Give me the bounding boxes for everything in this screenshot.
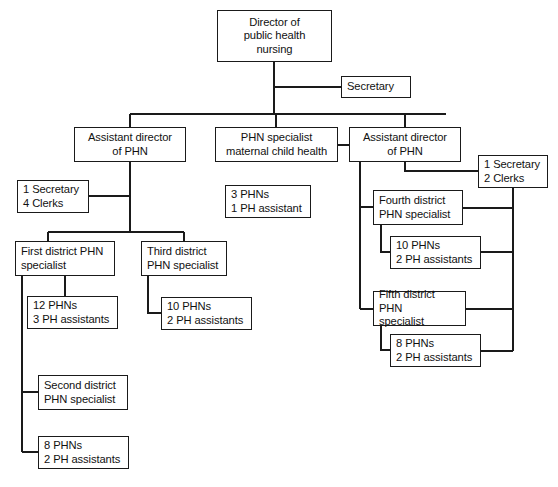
node-first-district[interactable]: First district PHNspecialist [15, 241, 115, 276]
node-secretary-top-line-1: Secretary [347, 80, 406, 93]
node-staff-third-district-line-2: 2 PH assistants [167, 314, 247, 327]
node-assistant-director-left-line-2: of PHN [112, 145, 147, 158]
node-staff-right-adm[interactable]: 1 Secretary2 Clerks [478, 155, 548, 188]
node-staff-right-adm-line-2: 2 Clerks [484, 172, 543, 185]
node-third-district[interactable]: Third districtPHN specialist [141, 241, 227, 276]
node-phn-specialist-mch-line-2: maternal child health [226, 145, 327, 158]
node-assistant-director-left[interactable]: Assistant directorof PHN [74, 127, 186, 162]
node-staff-left-adm-line-1: 1 Secretary [23, 183, 84, 196]
connector-fourth-to-staff [381, 225, 390, 252]
node-staff-second-district-line-1: 8 PHNs [44, 439, 124, 452]
node-staff-second-district-line-2: 2 PH assistants [44, 453, 124, 466]
node-second-district[interactable]: Second districtPHN specialist [38, 375, 128, 410]
node-staff-fifth-district-line-1: 8 PHNs [396, 337, 476, 350]
org-chart-canvas: Director ofpublic healthnursingSecretary… [0, 0, 558, 487]
node-staff-mch[interactable]: 3 PHNs1 PH assistant [225, 185, 311, 218]
node-director-line-2: public health [244, 29, 306, 42]
node-second-district-line-2: PHN specialist [44, 393, 123, 406]
node-staff-left-adm[interactable]: 1 Secretary4 Clerks [17, 180, 89, 213]
node-phn-specialist-mch[interactable]: PHN specialistmaternal child health [215, 127, 338, 162]
node-assistant-director-right[interactable]: Assistant directorof PHN [349, 127, 461, 162]
node-second-district-line-1: Second district [44, 379, 123, 392]
node-fifth-district-line-2: specialist [379, 315, 461, 328]
node-fifth-district[interactable]: Fifth district PHNspecialist [373, 291, 466, 326]
node-staff-first-district[interactable]: 12 PHNs3 PH assistants [27, 296, 118, 329]
node-first-district-line-2: specialist [21, 259, 110, 272]
node-staff-fourth-district[interactable]: 10 PHNs2 PH assistants [390, 236, 481, 269]
node-staff-left-adm-line-2: 4 Clerks [23, 197, 84, 210]
node-director-line-1: Director of [249, 16, 300, 29]
node-staff-first-district-line-1: 12 PHNs [33, 299, 113, 312]
node-first-district-line-1: First district PHN [21, 245, 110, 258]
node-fourth-district[interactable]: Fourth districtPHN specialist [373, 190, 463, 225]
node-director-line-3: nursing [257, 43, 293, 56]
node-staff-right-adm-line-1: 1 Secretary [484, 158, 543, 171]
node-assistant-director-left-line-1: Assistant director [88, 131, 172, 144]
node-staff-fourth-district-line-1: 10 PHNs [396, 239, 476, 252]
node-phn-specialist-mch-line-1: PHN specialist [241, 131, 312, 144]
node-staff-fifth-district-line-2: 2 PH assistants [396, 351, 476, 364]
node-staff-mch-line-2: 1 PH assistant [231, 202, 306, 215]
node-assistant-director-right-line-1: Assistant director [363, 131, 447, 144]
node-staff-fourth-district-line-2: 2 PH assistants [396, 253, 476, 266]
connector-fifth-to-staff [381, 326, 390, 350]
node-staff-first-district-line-2: 3 PH assistants [33, 313, 113, 326]
connector-director-down-stub [274, 62, 341, 87]
node-assistant-director-right-line-2: of PHN [387, 145, 422, 158]
node-staff-second-district[interactable]: 8 PHNs2 PH assistants [38, 436, 129, 469]
node-staff-third-district[interactable]: 10 PHNs2 PH assistants [161, 297, 252, 330]
connector-adm-right-to-staff [405, 162, 478, 171]
node-fourth-district-line-2: PHN specialist [379, 208, 458, 221]
node-director[interactable]: Director ofpublic healthnursing [217, 10, 332, 62]
node-third-district-line-2: PHN specialist [147, 259, 222, 272]
node-secretary-top[interactable]: Secretary [341, 76, 411, 98]
node-staff-third-district-line-1: 10 PHNs [167, 300, 247, 313]
node-third-district-line-1: Third district [147, 245, 222, 258]
connector-third-to-staff [148, 276, 161, 313]
node-staff-mch-line-1: 3 PHNs [231, 188, 306, 201]
node-staff-fifth-district[interactable]: 8 PHNs2 PH assistants [390, 334, 481, 367]
node-fourth-district-line-1: Fourth district [379, 194, 458, 207]
node-fifth-district-line-1: Fifth district PHN [379, 288, 461, 315]
